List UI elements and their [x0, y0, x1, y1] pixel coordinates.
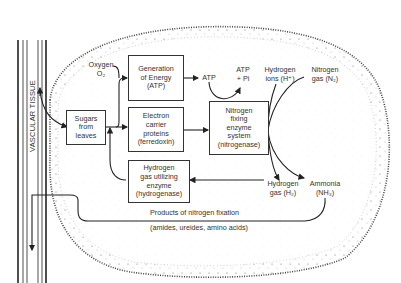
- atp-pi-label: ATP + Pi: [232, 66, 254, 83]
- hydrogenase-box: Hydrogen gas utilizing enzyme (hydrogena…: [128, 160, 190, 203]
- products-detail-label: (amides, ureides, amino acids): [150, 224, 310, 233]
- atp-label: ATP: [199, 74, 219, 83]
- oxygen-label: Oxygen O₂: [84, 61, 118, 78]
- ammonia-label: Ammonia (NH₃): [305, 180, 345, 197]
- electron-carrier-box: Electron carrier proteins (ferredoxin): [128, 107, 184, 152]
- sugars-from-leaves-box: Sugars from leaves: [66, 110, 106, 145]
- hydrogen-gas-label: Hydrogen gas (H₂): [263, 180, 303, 197]
- hydrogen-ions-label: Hydrogen ions (H⁺): [260, 66, 300, 83]
- vascular-tissue-label: VASCULAR TISSUE: [28, 80, 37, 152]
- nitrogen-gas-label: Nitrogen gas (N₂): [305, 66, 345, 83]
- diagram-canvas: [0, 0, 401, 283]
- products-label: Products of nitrogen fixation: [150, 209, 310, 218]
- energy-generation-box: Generation of Energy (ATP): [128, 55, 184, 101]
- nitrogenase-box: Nitrogen fixing enzyme system (nitrogena…: [209, 101, 269, 155]
